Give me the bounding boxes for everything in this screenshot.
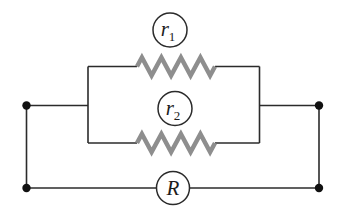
terminal-dot-right-top: [315, 101, 323, 109]
circuit-figure: r1 r2 R: [0, 0, 338, 209]
resistor-r2-zigzag: [137, 134, 215, 152]
label-r1: r1: [153, 13, 187, 47]
terminal-dot-left-top: [22, 101, 30, 109]
terminal-dot-right-bottom: [315, 184, 323, 192]
label-R-text: R: [166, 176, 180, 200]
label-r2: r2: [158, 92, 192, 126]
resistor-r1-zigzag: [137, 58, 215, 76]
terminal-dot-left-bottom: [22, 184, 30, 192]
label-equivalent-resistance: R: [157, 172, 190, 205]
circuit-diagram: r1 r2 R: [0, 0, 338, 209]
